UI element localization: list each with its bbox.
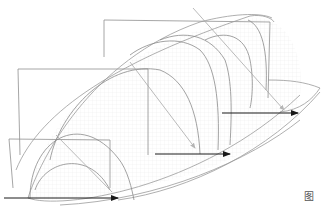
surface-body bbox=[28, 18, 301, 200]
figure-caption: 图 bbox=[304, 191, 314, 203]
section-diagram bbox=[0, 0, 323, 210]
